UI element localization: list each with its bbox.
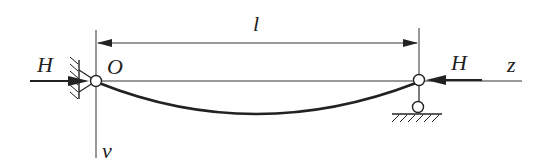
label-force-right: H [450,50,468,75]
left-hinge-node [91,76,102,87]
label-origin: O [107,54,123,79]
beam-diagram: H O l H z v [0,0,552,165]
diagram-canvas: H O l H z v [0,0,552,165]
right-hinge-node [414,75,425,86]
deflected-curve [99,83,416,114]
right-force-arrow [426,75,482,85]
label-axis-v: v [102,138,112,163]
left-force-arrow [30,76,89,86]
right-roller-support [392,80,442,122]
label-span: l [253,11,259,36]
label-force-left: H [36,52,54,77]
label-axis-z: z [506,52,516,77]
